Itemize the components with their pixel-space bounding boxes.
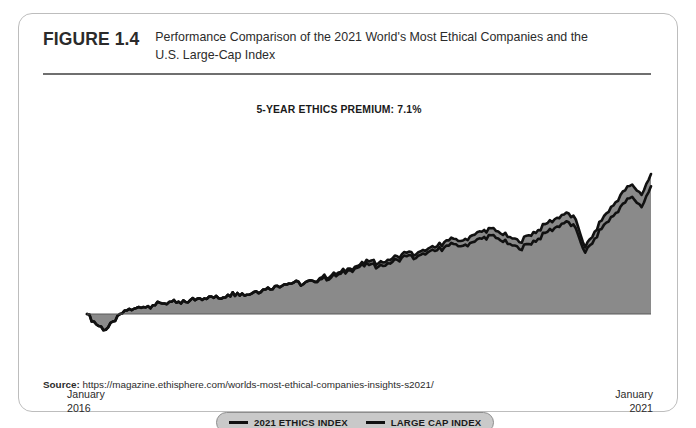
- figure-number: FIGURE 1.4: [43, 28, 139, 51]
- figure-title: Performance Comparison of the 2021 World…: [155, 28, 615, 65]
- figure-card: FIGURE 1.4 Performance Comparison of the…: [18, 13, 678, 412]
- legend-label-large-cap-index: LARGE CAP INDEX: [391, 417, 482, 428]
- axis-tick-end: January 2021: [581, 388, 653, 415]
- source-url: https://magazine.ethisphere.com/worlds-m…: [83, 379, 434, 390]
- chart-legend: 2021 ETHICS INDEX LARGE CAP INDEX: [216, 412, 494, 428]
- source-label: Source:: [43, 379, 80, 390]
- performance-comparison-plot: [19, 84, 677, 344]
- axis-tick-start: January 2016: [67, 388, 105, 415]
- legend-swatch-line-icon: [366, 421, 385, 424]
- legend-item-large-cap-index[interactable]: LARGE CAP INDEX: [366, 417, 482, 428]
- figure-header: FIGURE 1.4 Performance Comparison of the…: [43, 28, 651, 65]
- legend-item-ethics-index[interactable]: 2021 ETHICS INDEX: [229, 417, 348, 428]
- legend-swatch-line-icon: [229, 421, 248, 424]
- chart-area: 5-YEAR ETHICS PREMIUM: 7.1% January 2016…: [19, 84, 677, 344]
- chart-series-group: [87, 174, 651, 330]
- source-line: Source: https://magazine.ethisphere.com/…: [43, 379, 434, 390]
- axis-tick-end-month: January: [581, 388, 653, 402]
- area-fill-large-cap: [87, 186, 651, 330]
- header-divider: [43, 73, 651, 75]
- axis-tick-start-year: 2016: [67, 402, 105, 416]
- axis-tick-start-month: January: [67, 388, 105, 402]
- axis-tick-end-year: 2021: [581, 402, 653, 416]
- legend-label-ethics-index: 2021 ETHICS INDEX: [254, 417, 348, 428]
